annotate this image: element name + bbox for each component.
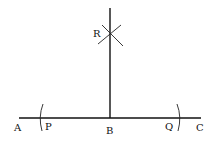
label-c: C xyxy=(196,122,204,133)
label-r: R xyxy=(93,28,101,39)
label-p: P xyxy=(45,121,52,132)
label-b: B xyxy=(106,125,113,136)
label-q: Q xyxy=(165,121,173,132)
perpendicular-construction-diagram: A P B Q C R xyxy=(0,0,214,142)
arc-r-from-q xyxy=(102,25,123,46)
label-a: A xyxy=(13,122,22,133)
